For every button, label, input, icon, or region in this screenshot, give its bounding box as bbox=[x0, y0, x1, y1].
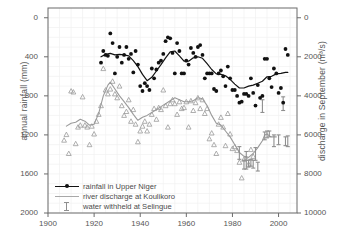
rainfall-point bbox=[286, 53, 290, 57]
rainfall-point bbox=[178, 49, 182, 53]
rainfall-point bbox=[221, 74, 225, 78]
rainfall-point bbox=[267, 76, 271, 80]
discharge-point bbox=[66, 151, 71, 155]
rainfall-point bbox=[159, 59, 163, 63]
rainfall-point bbox=[173, 72, 177, 76]
chart-figure: annual rainfall (mm) discharge in Septem… bbox=[0, 0, 345, 244]
legend-item-discharge[interactable]: river discharge at Koulikoro bbox=[54, 192, 175, 201]
rainfall-point bbox=[249, 76, 253, 80]
rainfall-point bbox=[240, 100, 244, 104]
legend-key-gray-line bbox=[54, 192, 80, 201]
rainfall-point bbox=[148, 88, 152, 92]
rainfall-point bbox=[198, 43, 202, 47]
rainfall-point bbox=[210, 72, 214, 76]
discharge-point bbox=[147, 122, 152, 126]
rainfall-point bbox=[194, 55, 198, 59]
rainfall-point bbox=[129, 52, 133, 56]
rainfall-point bbox=[233, 88, 237, 92]
discharge-point bbox=[225, 111, 230, 116]
rainfall-point bbox=[99, 61, 103, 65]
rainfall-point bbox=[228, 76, 232, 80]
rainfall-point bbox=[247, 94, 251, 98]
legend-label-withheld: water withheld at Selingue bbox=[83, 202, 172, 211]
discharge-point bbox=[73, 141, 78, 145]
legend-label-rainfall: rainfall in Upper Niger bbox=[83, 182, 156, 191]
rainfall-point bbox=[145, 84, 149, 88]
rainfall-point bbox=[152, 76, 156, 80]
rainfall-point bbox=[136, 63, 140, 67]
discharge-point bbox=[193, 100, 198, 104]
discharge-point bbox=[237, 160, 242, 165]
rainfall-point bbox=[224, 84, 228, 88]
rainfall-point bbox=[279, 86, 283, 90]
rainfall-point bbox=[187, 63, 191, 67]
rainfall-point bbox=[191, 51, 195, 55]
legend-label-discharge: river discharge at Koulikoro bbox=[83, 192, 175, 201]
discharge-markers bbox=[62, 66, 256, 180]
rainfall-point bbox=[171, 51, 175, 55]
legend-key-i-bar bbox=[54, 202, 80, 211]
legend-key-line-with-dot bbox=[54, 182, 80, 191]
rainfall-point bbox=[122, 53, 126, 57]
discharge-point bbox=[198, 106, 203, 111]
discharge-point bbox=[136, 139, 141, 144]
rainfall-point bbox=[106, 54, 110, 58]
rainfall-point bbox=[164, 39, 168, 43]
discharge-point bbox=[142, 119, 147, 124]
rainfall-point bbox=[108, 32, 112, 36]
rainfall-point bbox=[254, 104, 258, 108]
rainfall-point bbox=[161, 52, 165, 56]
withheld-bars bbox=[237, 97, 289, 171]
discharge-point bbox=[223, 143, 228, 148]
discharge-point bbox=[145, 129, 150, 133]
rainfall-point bbox=[138, 84, 142, 88]
discharge-point bbox=[94, 119, 99, 124]
rainfall-point bbox=[265, 57, 269, 61]
rainfall-point bbox=[150, 67, 154, 71]
discharge-point bbox=[124, 109, 129, 113]
rainfall-point bbox=[251, 91, 255, 95]
discharge-point bbox=[191, 108, 196, 112]
rainfall-point bbox=[226, 65, 230, 69]
rainfall-point bbox=[113, 72, 117, 76]
discharge-point bbox=[131, 107, 136, 112]
rainfall-point bbox=[168, 36, 172, 40]
rainfall-point bbox=[120, 61, 124, 65]
rainfall-point bbox=[270, 85, 274, 89]
rainfall-point bbox=[125, 45, 129, 49]
discharge-point bbox=[62, 138, 67, 142]
rainfall-point bbox=[214, 89, 218, 93]
rainfall-point bbox=[141, 89, 145, 93]
rainfall-point bbox=[189, 46, 193, 50]
rainfall-point bbox=[111, 41, 115, 45]
discharge-point bbox=[140, 124, 145, 129]
rainfall-point bbox=[134, 49, 138, 53]
rainfall-point bbox=[127, 57, 131, 61]
discharge-point bbox=[209, 131, 214, 135]
rainfall-point bbox=[256, 83, 260, 87]
discharge-point bbox=[154, 117, 159, 121]
discharge-point bbox=[239, 176, 244, 180]
discharge-point bbox=[64, 132, 69, 137]
rainfall-point bbox=[235, 94, 239, 98]
legend-item-withheld[interactable]: water withheld at Selingue bbox=[54, 202, 175, 211]
discharge-point bbox=[129, 119, 134, 124]
rainfall-point bbox=[115, 55, 119, 59]
discharge-point bbox=[202, 111, 207, 116]
rainfall-point bbox=[118, 45, 122, 49]
discharge-point bbox=[214, 151, 219, 155]
chart-legend: rainfall in Upper Niger river discharge … bbox=[54, 182, 175, 212]
rainfall-point bbox=[203, 76, 207, 80]
discharge-point bbox=[133, 122, 138, 126]
rainfall-point bbox=[274, 72, 278, 76]
rainfall-point bbox=[261, 94, 265, 98]
rainfall-point bbox=[131, 71, 135, 75]
rainfall-point bbox=[155, 68, 159, 72]
rainfall-point bbox=[277, 91, 281, 95]
rainfall-point bbox=[272, 67, 276, 71]
legend-item-rainfall[interactable]: rainfall in Upper Niger bbox=[54, 182, 175, 191]
rainfall-point bbox=[175, 41, 179, 45]
rainfall-point bbox=[281, 101, 285, 105]
rainfall-point bbox=[284, 47, 288, 51]
discharge-point bbox=[175, 112, 180, 116]
